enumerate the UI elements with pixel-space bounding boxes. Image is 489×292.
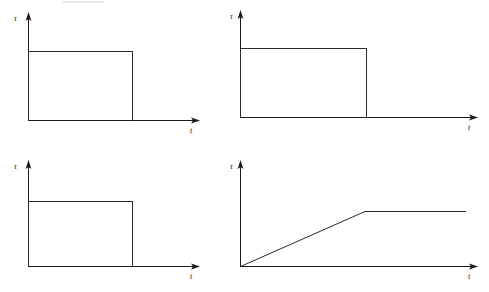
chart-label-layer-bottom-right: τ t [230, 146, 489, 292]
chart-panel-top-right: τ t [230, 0, 489, 146]
y-axis-label: τ [14, 162, 18, 171]
figure-root: τ t τ t τ t [0, 0, 489, 292]
x-axis-label: t [190, 126, 193, 135]
chart-label-layer-top-right: τ t [230, 0, 489, 146]
x-axis-label: t [468, 272, 471, 281]
y-axis-label: τ [230, 12, 234, 21]
y-axis-label: τ [230, 162, 234, 171]
chart-label-layer-bottom-left: τ t [0, 146, 230, 292]
chart-panel-top-left: τ t [0, 0, 230, 146]
chart-label-layer-top-left: τ t [0, 0, 230, 146]
chart-panel-bottom-right: τ t [230, 146, 489, 292]
chart-panel-bottom-left: τ t [0, 146, 230, 292]
x-axis-label: t [468, 123, 471, 132]
y-axis-label: τ [14, 14, 18, 23]
x-axis-label: t [190, 272, 193, 281]
